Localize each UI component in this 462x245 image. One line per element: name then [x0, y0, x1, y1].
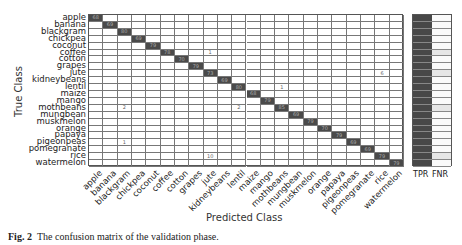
matrix-cell	[103, 105, 117, 112]
fnr-cell	[432, 50, 451, 57]
matrix-cell	[189, 15, 203, 22]
matrix-cell	[261, 105, 275, 112]
matrix-cell	[132, 77, 146, 84]
fnr-label: FNR	[432, 170, 448, 179]
fnr-cell	[432, 132, 451, 139]
matrix-cell	[204, 132, 218, 139]
matrix-cell: 70	[175, 56, 189, 63]
matrix-cell	[261, 63, 275, 70]
matrix-cell	[361, 98, 375, 105]
matrix-cell	[161, 119, 175, 126]
matrix-cell	[390, 22, 404, 29]
matrix-cell: 2	[232, 105, 246, 112]
matrix-cell	[175, 43, 189, 50]
matrix-cell	[390, 146, 404, 153]
matrix-cell	[318, 77, 332, 84]
matrix-cell	[361, 56, 375, 63]
matrix-cell	[332, 153, 346, 160]
matrix-cell	[361, 112, 375, 119]
matrix-cell	[304, 15, 318, 22]
matrix-cell	[103, 139, 117, 146]
matrix-cell	[318, 43, 332, 50]
tpr-label: TPR	[413, 170, 428, 179]
matrix-cell	[218, 105, 232, 112]
matrix-cell	[247, 36, 261, 43]
matrix-cell	[318, 105, 332, 112]
matrix-cell	[89, 50, 103, 57]
matrix-cell	[89, 126, 103, 133]
fnr-cell	[432, 160, 451, 167]
matrix-cell	[304, 139, 318, 146]
matrix-cell: 6	[375, 70, 389, 77]
matrix-cell	[347, 70, 361, 77]
matrix-cell	[175, 15, 189, 22]
matrix-cell	[361, 91, 375, 98]
matrix-cell	[204, 112, 218, 119]
matrix-cell	[275, 63, 289, 70]
matrix-cell	[332, 84, 346, 91]
matrix-cell	[289, 29, 303, 36]
matrix-cell	[89, 146, 103, 153]
matrix-cell	[218, 91, 232, 98]
matrix-cell	[275, 56, 289, 63]
matrix-cell	[390, 132, 404, 139]
matrix-cell	[132, 63, 146, 70]
matrix-cell	[189, 112, 203, 119]
matrix-cell	[318, 84, 332, 91]
matrix-cell	[304, 43, 318, 50]
matrix-cell	[118, 56, 132, 63]
matrix-cell	[247, 15, 261, 22]
matrix-cell	[232, 119, 246, 126]
matrix-cell	[275, 70, 289, 77]
matrix-cell	[247, 50, 261, 57]
matrix-cell	[189, 146, 203, 153]
x-axis-title: Predicted Class	[206, 212, 282, 223]
matrix-cell	[390, 63, 404, 70]
matrix-cell	[361, 153, 375, 160]
matrix-cell	[332, 91, 346, 98]
matrix-cell	[204, 22, 218, 29]
matrix-cell	[146, 160, 160, 167]
matrix-cell	[204, 56, 218, 63]
matrix-cell	[103, 84, 117, 91]
matrix-cell	[247, 70, 261, 77]
tpr-cell	[413, 139, 432, 146]
matrix-cell	[118, 112, 132, 119]
matrix-cell	[289, 119, 303, 126]
matrix-cell	[304, 77, 318, 84]
matrix-cell	[332, 56, 346, 63]
matrix-cell	[189, 50, 203, 57]
matrix-cell	[261, 77, 275, 84]
matrix-cell	[161, 36, 175, 43]
matrix-cell	[289, 160, 303, 167]
matrix-cell	[318, 132, 332, 139]
tpr-cell	[413, 22, 432, 29]
matrix-cell	[232, 22, 246, 29]
matrix-cell	[375, 15, 389, 22]
matrix-cell	[304, 126, 318, 133]
matrix-cell	[218, 139, 232, 146]
matrix-cell	[103, 153, 117, 160]
matrix-cell	[189, 160, 203, 167]
matrix-cell	[218, 119, 232, 126]
matrix-cell	[289, 132, 303, 139]
fnr-cell	[432, 29, 451, 36]
matrix-cell: 78	[161, 50, 175, 57]
matrix-cell: 68	[89, 15, 103, 22]
matrix-cell	[375, 112, 389, 119]
matrix-cell	[390, 119, 404, 126]
matrix-cell	[175, 84, 189, 91]
matrix-cell	[175, 105, 189, 112]
matrix-cell	[361, 29, 375, 36]
matrix-cell	[204, 29, 218, 36]
matrix-cell	[89, 22, 103, 29]
matrix-cell	[375, 105, 389, 112]
matrix-cell: 79	[304, 119, 318, 126]
matrix-cell	[132, 132, 146, 139]
matrix-cell	[289, 15, 303, 22]
matrix-cell	[332, 139, 346, 146]
matrix-cell	[247, 132, 261, 139]
matrix-cell	[347, 77, 361, 84]
matrix-cell	[146, 29, 160, 36]
matrix-cell	[218, 132, 232, 139]
